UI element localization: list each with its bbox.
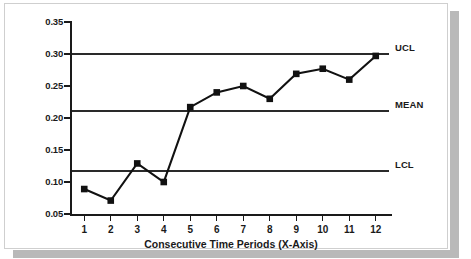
data-point-marker <box>81 186 88 193</box>
data-point-marker <box>213 89 220 96</box>
y-tick-label: 0.15 <box>29 144 63 155</box>
x-tick-label: 8 <box>258 224 282 235</box>
x-tick <box>84 215 85 221</box>
y-tick-label: 0.35 <box>29 16 63 27</box>
data-point-marker <box>160 179 167 186</box>
x-tick <box>269 215 270 221</box>
x-tick-label: 9 <box>284 224 308 235</box>
y-tick <box>64 149 71 150</box>
data-point-marker <box>346 76 353 83</box>
y-tick-label: 0.25 <box>29 80 63 91</box>
y-tick-label: 0.30 <box>29 48 63 59</box>
y-tick <box>64 53 71 54</box>
limit-label-ucl: UCL <box>395 42 415 53</box>
y-tick <box>64 117 71 118</box>
x-tick <box>110 215 111 221</box>
y-tick-label: 0.10 <box>29 176 63 187</box>
x-tick-label: 3 <box>125 224 149 235</box>
card-shadow-bottom <box>13 250 459 258</box>
data-point-marker <box>240 83 247 90</box>
x-tick-label: 1 <box>72 224 96 235</box>
data-point-marker <box>372 53 379 60</box>
x-tick <box>216 215 217 221</box>
x-tick <box>349 215 350 221</box>
data-point-marker <box>319 65 326 72</box>
data-point-marker <box>293 71 300 78</box>
data-point-marker <box>266 96 273 103</box>
y-tick <box>64 213 71 214</box>
chart-figure: 0.050.100.150.200.250.300.35 12345678910… <box>0 0 471 259</box>
data-point-marker <box>134 160 141 167</box>
limit-label-mean: MEAN <box>395 99 423 110</box>
x-tick-label: 12 <box>364 224 388 235</box>
y-tick-label: 0.20 <box>29 112 63 123</box>
y-tick <box>64 85 71 86</box>
x-axis-title: Consecutive Time Periods (X-Axis) <box>70 238 392 250</box>
x-tick-label: 5 <box>178 224 202 235</box>
x-tick-label: 4 <box>152 224 176 235</box>
x-tick <box>322 215 323 221</box>
data-point-marker <box>187 104 194 111</box>
x-tick-label: 6 <box>205 224 229 235</box>
plot-area <box>71 22 389 214</box>
x-tick <box>296 215 297 221</box>
x-axis-line <box>70 214 392 216</box>
x-tick <box>190 215 191 221</box>
x-tick-label: 10 <box>311 224 335 235</box>
y-tick <box>64 181 71 182</box>
series-polyline <box>84 56 376 201</box>
x-tick <box>375 215 376 221</box>
series-line-markers <box>71 22 389 214</box>
x-tick-label: 11 <box>337 224 361 235</box>
limit-label-lcl: LCL <box>395 159 414 170</box>
x-tick-label: 7 <box>231 224 255 235</box>
x-tick <box>243 215 244 221</box>
y-tick-label: 0.05 <box>29 208 63 219</box>
x-tick-label: 2 <box>99 224 123 235</box>
y-tick <box>64 21 71 22</box>
data-point-marker <box>107 197 114 204</box>
x-tick <box>163 215 164 221</box>
x-tick <box>137 215 138 221</box>
card-shadow-right <box>450 11 459 255</box>
